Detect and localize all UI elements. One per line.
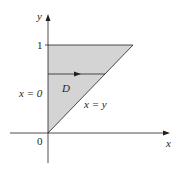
x-axis-label: x [165,137,171,149]
region-label: D [61,82,70,94]
y-axis-arrow-icon [46,14,51,21]
hypotenuse-label: x = y [83,98,107,110]
origin-label: 0 [37,135,43,147]
y-axis-label: y [36,10,42,22]
y-tick-label: 1 [37,39,43,51]
left-boundary-label: x = 0 [18,87,43,99]
diagram-canvas: y x 1 0 D x = 0 x = y [0,0,185,169]
x-axis-arrow-icon [163,131,170,136]
